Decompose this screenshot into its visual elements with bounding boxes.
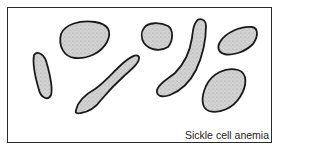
cell-oval-top-left xyxy=(60,22,109,59)
cell-elongated-left xyxy=(33,53,51,98)
cell-sickle-diagonal xyxy=(76,55,139,113)
cell-oval-top-center xyxy=(142,23,172,50)
cell-oval-top-right xyxy=(218,27,257,55)
figure-caption: Sickle cell anemia xyxy=(185,129,269,141)
cell-teardrop-bottom-right xyxy=(203,69,246,112)
